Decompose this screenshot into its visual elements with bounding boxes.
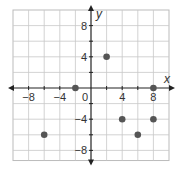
y-tick-label: −8 bbox=[74, 144, 87, 156]
y-axis-label: y bbox=[95, 7, 103, 21]
y-tick-label: 4 bbox=[81, 51, 87, 63]
x-tick-label: 8 bbox=[150, 91, 156, 103]
data-point bbox=[103, 54, 110, 61]
x-tick-label: −4 bbox=[54, 91, 67, 103]
y-axis-arrow-down-icon bbox=[88, 160, 94, 166]
x-axis-label: x bbox=[163, 72, 171, 86]
y-tick-label: 8 bbox=[81, 20, 87, 32]
y-tick-label: −4 bbox=[74, 113, 87, 125]
data-point bbox=[41, 132, 48, 139]
data-point bbox=[150, 116, 157, 123]
data-point bbox=[72, 85, 79, 92]
data-point bbox=[150, 85, 157, 92]
y-axis-arrow-up-icon bbox=[88, 5, 94, 11]
data-point bbox=[135, 132, 142, 139]
x-tick-label: 4 bbox=[119, 91, 125, 103]
origin-label: 0 bbox=[82, 91, 88, 103]
coordinate-plane: −8−404884−4−8xy bbox=[0, 0, 180, 178]
x-tick-label: −8 bbox=[22, 91, 35, 103]
data-point bbox=[119, 116, 126, 123]
x-axis-arrow-left-icon bbox=[8, 85, 14, 91]
